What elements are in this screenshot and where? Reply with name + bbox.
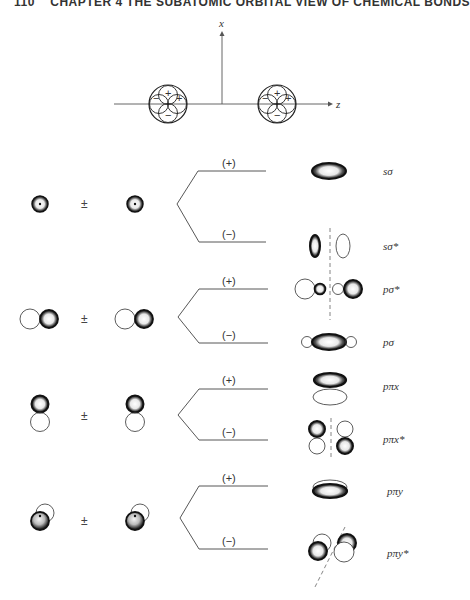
left-atom-sign-bottom: − <box>165 109 171 121</box>
p-pi-x-bonding-orbital <box>314 373 346 387</box>
upper-sign-label-4: (+) <box>222 472 236 484</box>
lower-sign-label-2: (−) <box>222 329 236 341</box>
plus-minus-symbol-2: ± <box>81 312 88 326</box>
px-orbital-right <box>127 396 144 413</box>
p-sigma-bonding-orbital <box>312 334 346 350</box>
x-axis-label: x <box>218 17 224 29</box>
pz-orbital-right <box>135 310 153 328</box>
upper-sign-label-2: (+) <box>222 275 236 287</box>
mo-label-s-sigma-star: sσ* <box>383 240 399 252</box>
s-sigma-bonding-orbital <box>312 163 346 179</box>
p-pi-y-bonding-orbital <box>313 484 347 498</box>
mo-label-p-pi-y: pπy <box>386 485 403 497</box>
upper-sign-label-3: (+) <box>222 374 236 386</box>
mo-label-p-sigma: pσ <box>382 336 395 348</box>
coordinate-axes: z x + − + − + − + − <box>114 17 341 123</box>
mo-label-p-pi-x: pπx <box>382 380 399 392</box>
pz-orbital-left <box>40 310 58 328</box>
lower-sign-label-3: (−) <box>222 426 236 438</box>
left-atom-sign-right: + <box>176 92 182 104</box>
p-pi-x-star-orbital <box>309 421 325 437</box>
z-axis-label: z <box>335 98 341 110</box>
row-pz-orbitals: ± (+) (−) pσ* pσ <box>20 275 400 350</box>
py-orbital-left <box>31 512 49 530</box>
lower-sign-label-4: (−) <box>222 535 236 547</box>
mo-label-p-pi-y-star: pπy* <box>386 547 409 559</box>
right-atom-sign-bottom: − <box>274 109 280 121</box>
mo-label-s-sigma: sσ <box>383 165 393 177</box>
plus-minus-symbol: ± <box>81 197 88 211</box>
mo-label-p-sigma-star: pσ* <box>382 283 400 295</box>
upper-sign-label: (+) <box>222 157 236 169</box>
py-orbital-right <box>126 512 144 530</box>
p-pi-y-star-orbital <box>309 542 327 560</box>
left-atom-sign-top: + <box>165 87 171 99</box>
plus-minus-symbol-3: ± <box>81 409 88 423</box>
right-atom-sign-right: + <box>285 92 291 104</box>
right-atom-sign-top: + <box>274 87 280 99</box>
row-px-orbitals: ± (+) (−) pπx pπx* <box>31 373 405 458</box>
p-sigma-star-orbital <box>344 280 362 298</box>
row-py-orbitals: ± (+) (−) pπy pπy* <box>31 472 409 587</box>
px-orbital-left <box>32 396 49 413</box>
lower-sign-label: (−) <box>222 228 236 240</box>
left-atom-sign-left: − <box>153 92 159 104</box>
s-sigma-star-lobe-shaded <box>310 235 320 257</box>
mo-label-p-pi-x-star: pπx* <box>382 433 405 445</box>
plus-minus-symbol-4: ± <box>81 514 88 528</box>
right-atom-sign-left: − <box>262 92 268 104</box>
s-sigma-star-lobe-open <box>336 234 350 258</box>
row-s-orbitals: ± (+) (−) sσ sσ* <box>32 157 399 320</box>
